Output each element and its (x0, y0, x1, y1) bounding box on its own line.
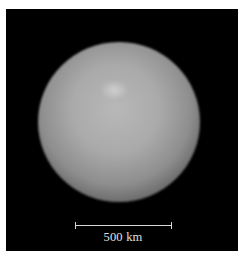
space-image: 500 km (6, 9, 238, 251)
scale-bar-line (75, 225, 172, 226)
scale-bar (75, 222, 172, 229)
scale-bar-label: 500 km (73, 230, 173, 244)
scale-bar-left-tick (75, 222, 76, 229)
scale-bar-right-tick (171, 222, 172, 229)
planet-disk (38, 42, 200, 202)
figure: 500 km (0, 0, 245, 256)
